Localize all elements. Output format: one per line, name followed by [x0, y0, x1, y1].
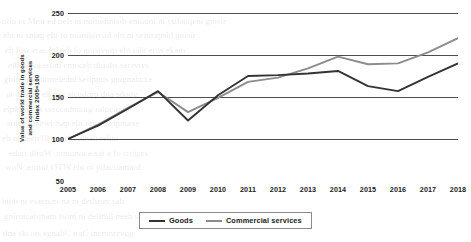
x-axis-tick-label: 2008 — [150, 185, 166, 194]
gridlines — [68, 13, 458, 181]
y-axis-title-line2: and commercial services — [25, 54, 33, 142]
bleed-text-line: gnirutcafunam tsom ni detimil neeb sah — [4, 211, 147, 221]
series-line — [68, 63, 458, 139]
x-axis-tick-labels: 2005200620072008200920102011201220132014… — [68, 185, 458, 197]
x-axis-tick-label: 2017 — [420, 185, 436, 194]
legend-item[interactable]: Commercial services — [206, 216, 302, 225]
x-axis-tick-label: 2013 — [300, 185, 316, 194]
series-lines — [68, 38, 458, 139]
x-axis-tick-label: 2012 — [270, 185, 286, 194]
chart-figure: olio ot Mnit ed oels ai noitudintsib emo… — [0, 0, 471, 242]
x-axis-tick-label: 2015 — [360, 185, 376, 194]
legend-label: Commercial services — [226, 216, 302, 225]
x-axis-tick-label: 2007 — [120, 185, 136, 194]
y-axis-tick-label: 150 — [36, 93, 64, 102]
y-axis-title-line1: Value of world trade in goods — [18, 54, 25, 142]
y-axis-tick-label: 100 — [36, 135, 64, 144]
x-axis-tick-label: 2010 — [210, 185, 226, 194]
legend-swatch-icon — [206, 220, 222, 222]
plot-area — [68, 13, 458, 181]
bleed-text-line: dna skcots egnahC traC tnemnrevog — [3, 228, 133, 238]
y-axis-tick-labels: 25020015010050 — [36, 0, 64, 242]
x-axis-tick-label: 2006 — [90, 185, 106, 194]
line-chart-svg — [68, 13, 458, 181]
y-axis-tick-label: 250 — [36, 9, 64, 18]
x-axis-tick-label: 2018 — [450, 185, 466, 194]
chart-legend: GoodsCommercial services — [139, 212, 312, 229]
x-axis-tick-label: 2005 — [60, 185, 76, 194]
series-line — [68, 38, 458, 139]
legend-label: Goods — [169, 216, 193, 225]
x-axis-tick-label: 2011 — [240, 185, 256, 194]
x-axis-tick-label: 2014 — [330, 185, 346, 194]
x-axis-tick-label: 2009 — [180, 185, 196, 194]
y-axis-tick-label: 200 — [36, 51, 64, 60]
legend-item[interactable]: Goods — [149, 216, 193, 225]
legend-swatch-icon — [149, 220, 165, 222]
x-axis-tick-label: 2016 — [390, 185, 406, 194]
